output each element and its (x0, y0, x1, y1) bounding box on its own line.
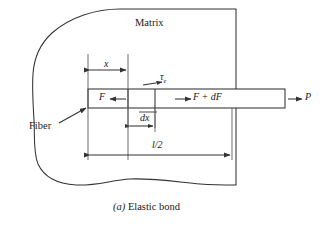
caption-prefix: (a) (113, 201, 125, 212)
fiber-label: Fiber (29, 121, 51, 132)
figure-caption: (a) Elastic bond (113, 202, 180, 213)
caption-text: Elastic bond (128, 201, 180, 212)
dimension-x-label: x (104, 59, 108, 69)
matrix-label: Matrix (135, 18, 164, 29)
shear-stress-subscript: e (164, 77, 167, 84)
applied-load-label: P (305, 92, 311, 102)
figure-elastic-bond: Matrix Fiber x τe F F + dF P dx l/2 (a) … (0, 0, 323, 228)
force-right-label: F + dF (193, 92, 222, 102)
shear-stress-label: τe (160, 72, 166, 85)
fiber-leader-arrow (59, 108, 86, 123)
element-width-label: dx (140, 113, 149, 123)
half-length-label: l/2 (152, 140, 163, 150)
force-left-label: F (99, 92, 105, 102)
diagram-canvas (0, 0, 323, 228)
